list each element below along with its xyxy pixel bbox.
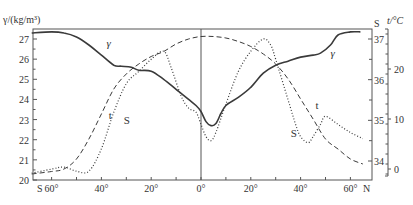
tick-label: 60°: [45, 183, 59, 194]
tick-label: 20: [19, 175, 29, 186]
series-label: S: [124, 114, 130, 126]
series-label: t: [109, 109, 112, 121]
series-label: S: [291, 127, 297, 139]
tick-label: 35: [374, 115, 384, 126]
north-label: N: [363, 183, 370, 194]
ocean-profile-chart: 2021222324252627 34353637 01020 60°40°20…: [0, 0, 413, 205]
tick-label: 20°: [144, 183, 158, 194]
curve-labels: γγttSS: [106, 37, 335, 139]
temperature-axis: 01020: [385, 29, 404, 176]
tick-label: 34: [374, 156, 384, 167]
tick-label: 36: [374, 75, 384, 86]
south-label: S: [37, 183, 43, 194]
plot-frame: [33, 29, 372, 180]
tick-label: 60°: [343, 183, 357, 194]
density-axis: 2021222324252627: [19, 34, 37, 186]
series-label: t: [316, 99, 319, 111]
tick-label: 27: [19, 34, 29, 45]
plot-border: [33, 29, 372, 180]
temperature-axis-label: t/°C: [387, 15, 404, 26]
tick-label: 20: [394, 64, 404, 75]
tick-label: 37: [374, 34, 384, 45]
salinity-axis-label: S: [374, 18, 380, 29]
tick-label: 21: [19, 155, 29, 166]
tick-label: 10: [394, 114, 404, 125]
series-label: γ: [106, 37, 111, 49]
tick-label: 22: [19, 135, 29, 146]
tick-label: 24: [19, 94, 29, 105]
tick-label: 25: [19, 74, 29, 85]
tick-label: 23: [19, 115, 29, 126]
tick-label: 40°: [294, 183, 308, 194]
tick-label: 26: [19, 54, 29, 65]
tick-label: 20°: [244, 183, 258, 194]
density-axis-label: γ/(kg/m³): [2, 14, 40, 26]
series-temperature-line: [32, 36, 363, 174]
data-series: [32, 32, 363, 174]
tick-label: 40°: [94, 183, 108, 194]
tick-label: 0°: [197, 183, 206, 194]
salinity-axis: 34353637: [368, 34, 384, 167]
series-density-line: [32, 32, 361, 126]
tick-label: 0: [394, 164, 399, 175]
series-label: γ: [330, 47, 335, 59]
